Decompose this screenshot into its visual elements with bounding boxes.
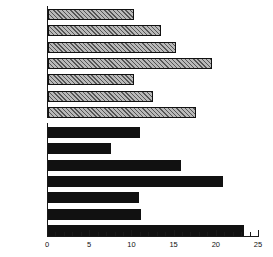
bar-hatched-4 <box>48 74 134 85</box>
x-tick-label: 15 <box>169 240 177 249</box>
bar-hatched-1 <box>48 25 161 36</box>
x-tick-minor <box>115 232 116 236</box>
bar-solid-3 <box>48 176 223 187</box>
x-tick-major <box>258 230 259 236</box>
x-tick-minor <box>182 232 183 236</box>
bar-solid-2 <box>48 160 181 171</box>
x-tick-minor <box>72 232 73 236</box>
x-tick-minor <box>148 232 149 236</box>
x-tick-major <box>131 230 132 236</box>
bar-solid-1 <box>48 143 111 154</box>
x-tick-minor <box>207 232 208 236</box>
bar-solid-4 <box>48 192 139 203</box>
x-tick-minor <box>81 232 82 236</box>
x-tick-major <box>47 230 48 236</box>
x-tick-label: 10 <box>127 240 135 249</box>
x-tick-minor <box>224 232 225 236</box>
x-axis: 0510152025 <box>0 236 273 257</box>
bar-hatched-6 <box>48 107 196 118</box>
x-tick-minor <box>140 232 141 236</box>
bar-hatched-5 <box>48 91 153 102</box>
x-tick-minor <box>165 232 166 236</box>
bar-solid-6 <box>48 225 244 236</box>
bar-hatched-0 <box>48 9 134 20</box>
x-tick-minor <box>233 232 234 236</box>
x-tick-label: 20 <box>212 240 220 249</box>
x-tick-minor <box>64 232 65 236</box>
x-tick-minor <box>241 232 242 236</box>
x-axis-line <box>47 236 259 237</box>
x-tick-label: 25 <box>254 240 262 249</box>
x-tick-minor <box>157 232 158 236</box>
x-tick-minor <box>98 232 99 236</box>
x-tick-minor <box>250 232 251 236</box>
x-tick-minor <box>106 232 107 236</box>
x-tick-minor <box>55 232 56 236</box>
x-tick-label: 0 <box>45 240 49 249</box>
x-tick-major <box>89 230 90 236</box>
bar-hatched-3 <box>48 58 212 69</box>
x-tick-minor <box>123 232 124 236</box>
bar-solid-5 <box>48 209 141 220</box>
chart-panel-solid: Very great65432None <box>0 118 273 238</box>
bar-solid-0 <box>48 127 140 138</box>
x-tick-minor <box>199 232 200 236</box>
x-tick-label: 5 <box>87 240 91 249</box>
bar-hatched-2 <box>48 42 176 53</box>
x-tick-major <box>216 230 217 236</box>
x-tick-minor <box>190 232 191 236</box>
chart-panel-hatched: Very great65432None <box>0 0 273 118</box>
bar-chart: Very great65432None Very great65432None … <box>0 0 273 257</box>
x-tick-major <box>174 230 175 236</box>
